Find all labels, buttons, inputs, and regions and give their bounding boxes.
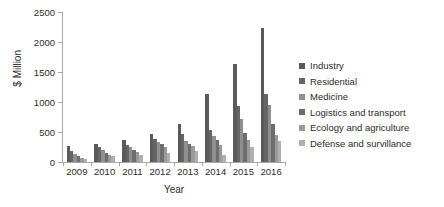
x-axis-tick <box>230 162 231 166</box>
bar <box>222 155 225 162</box>
chart-figure: $ Million 05001000150020002500 200920102… <box>0 0 444 207</box>
x-axis-tick-label: 2015 <box>233 166 254 177</box>
bar-group-2011 <box>119 12 147 162</box>
legend-label: Ecology and agriculture <box>310 123 409 133</box>
legend-label: Industry <box>310 61 344 71</box>
x-axis-tick <box>257 162 258 166</box>
legend-swatch-icon <box>299 78 305 84</box>
bar <box>167 153 170 162</box>
y-axis-tick-label: 500 <box>39 127 55 138</box>
x-axis-tick <box>146 162 147 166</box>
y-axis-tick-label: 2500 <box>34 7 55 18</box>
chart-legend: IndustryResidentialMedicineLogistics and… <box>299 58 439 151</box>
legend-label: Medicine <box>310 92 348 102</box>
bar <box>250 147 253 162</box>
y-axis-tick-label: 2000 <box>34 37 55 48</box>
x-axis-tick-label: 2016 <box>261 166 282 177</box>
x-axis-tick <box>91 162 92 166</box>
legend-label: Logistics and transport <box>310 108 406 118</box>
x-axis-tick-label: 2012 <box>150 166 171 177</box>
bar-group-2015 <box>230 12 258 162</box>
x-axis-tick <box>285 162 286 166</box>
bar-group-2014 <box>202 12 230 162</box>
legend-item-defense-and-survillance[interactable]: Defense and survillance <box>299 136 439 152</box>
bar <box>111 156 114 162</box>
bar <box>139 155 142 162</box>
legend-swatch-icon <box>299 63 305 69</box>
bar-group-2013 <box>174 12 202 162</box>
legend-item-logistics-and-transport[interactable]: Logistics and transport <box>299 105 439 121</box>
legend-item-ecology-and-agriculture[interactable]: Ecology and agriculture <box>299 120 439 136</box>
legend-swatch-icon <box>299 140 305 146</box>
x-axis-tick-label: 2011 <box>122 166 142 177</box>
bar-group-2009 <box>63 12 91 162</box>
x-axis-tick-label: 2014 <box>205 166 226 177</box>
x-axis-tick <box>174 162 175 166</box>
bar <box>84 159 87 162</box>
bar-group-2010 <box>91 12 119 162</box>
x-axis-tick <box>202 162 203 166</box>
x-axis-title: Year <box>63 184 285 195</box>
legend-item-residential[interactable]: Residential <box>299 74 439 90</box>
legend-item-industry[interactable]: Industry <box>299 58 439 74</box>
y-axis-title: $ Million <box>12 50 26 87</box>
legend-swatch-icon <box>299 94 305 100</box>
x-axis-tick <box>63 162 64 166</box>
bar <box>195 151 198 162</box>
bar-group-2016 <box>257 12 285 162</box>
x-axis-tick-label: 2013 <box>177 166 198 177</box>
y-axis-tick-label: 1500 <box>34 67 55 78</box>
legend-swatch-icon <box>299 125 305 131</box>
bar-group-2012 <box>146 12 174 162</box>
x-axis-tick <box>119 162 120 166</box>
legend-label: Residential <box>310 77 357 87</box>
legend-item-medicine[interactable]: Medicine <box>299 89 439 105</box>
bar <box>278 141 281 162</box>
legend-swatch-icon <box>299 109 305 115</box>
y-axis-tick-label: 1000 <box>34 97 55 108</box>
y-axis-tick-label: 0 <box>50 157 55 168</box>
legend-label: Defense and survillance <box>310 139 411 149</box>
x-axis-tick-label: 2009 <box>66 166 87 177</box>
x-axis-tick-label: 2010 <box>94 166 115 177</box>
plot-area: 05001000150020002500 2009201020112012201… <box>63 12 285 162</box>
